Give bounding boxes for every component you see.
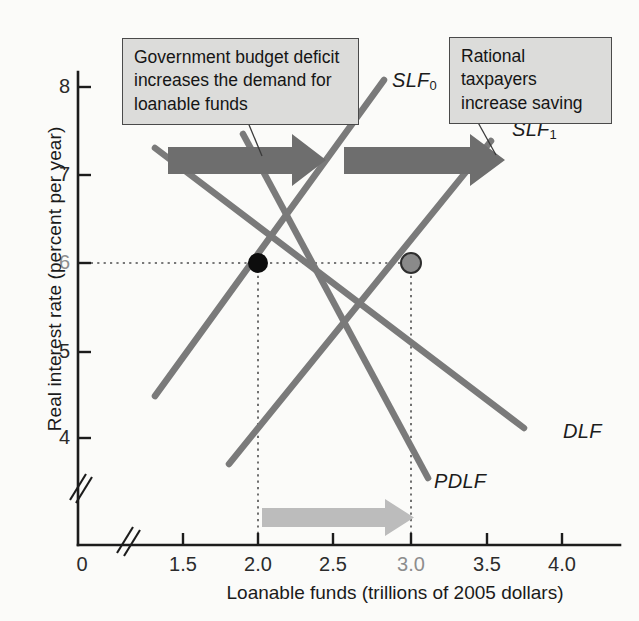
curve-dlf	[155, 148, 524, 428]
curve-label-slf0-text: SLF	[392, 69, 430, 91]
callout-demand-shift: Government budget deficit increases the …	[122, 38, 359, 125]
x-tick-2-0: 2.0	[223, 553, 293, 576]
axis-break-icon-y	[70, 474, 92, 503]
callout-supply-shift: Rational taxpayers increase saving	[449, 37, 612, 124]
supply-shift-arrow	[344, 134, 505, 186]
curve-label-slf0: SLF0	[392, 69, 437, 93]
curve-group	[155, 80, 524, 478]
curve-label-dlf: DLF	[563, 420, 602, 443]
curve-label-slf1-sub: 1	[550, 127, 558, 142]
axis-lines	[78, 72, 620, 545]
curve-label-slf0-sub: 0	[430, 78, 438, 93]
x-tick-2-5: 2.5	[298, 553, 368, 576]
x-axis-title: Loanable funds (trillions of 2005 dollar…	[165, 582, 625, 604]
y-axis-title: Real interest rate (percent per year)	[44, 99, 66, 459]
loanable-funds-figure: 8 7 6 5 4 0 1.5 2.0 2.5 3.0 3.5 4.0 Real…	[0, 0, 639, 621]
x-tick-1-5: 1.5	[148, 553, 218, 576]
x-tick-3-0: 3.0	[376, 553, 446, 576]
curve-slf0	[155, 80, 384, 396]
x-axis-ticks	[183, 533, 562, 545]
axis-break-icon-x	[117, 527, 140, 556]
quantity-increase-arrow	[262, 499, 414, 536]
y-tick-8: 8	[36, 75, 70, 98]
x-tick-4-0: 4.0	[527, 553, 597, 576]
x-tick-3-5: 3.5	[452, 553, 522, 576]
x-tick-0: 0	[47, 553, 117, 576]
curve-slf1	[229, 141, 491, 464]
new-equilibrium-dot	[401, 253, 421, 273]
y-axis-ticks	[78, 87, 91, 438]
curve-pdlf	[243, 134, 428, 478]
initial-equilibrium-dot	[248, 253, 268, 273]
curve-label-pdlf: PDLF	[434, 470, 486, 493]
